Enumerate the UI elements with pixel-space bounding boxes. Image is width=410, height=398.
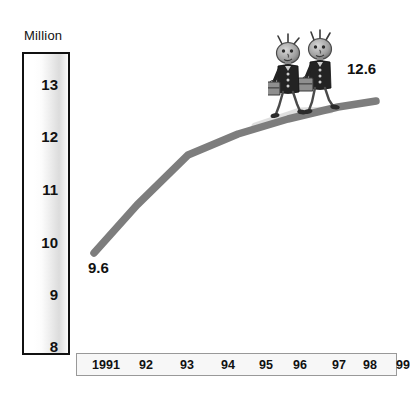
y-axis-tick-12: 12 (41, 128, 58, 145)
x-axis-tick-94: 94 (221, 358, 235, 372)
y-axis-tick-11: 11 (42, 181, 58, 198)
trend-line (94, 101, 376, 253)
x-axis-tick-1991: 1991 (92, 358, 120, 372)
x-axis-scale-box: 1991 92 93 94 95 96 97 98 99 2000 (76, 353, 397, 376)
businessman-right (298, 30, 340, 115)
x-axis-tick-96: 96 (293, 358, 307, 372)
x-axis-tick-97: 97 (332, 358, 346, 372)
x-axis-tick-99: 99 (396, 358, 410, 372)
x-axis-tick-95: 95 (259, 358, 273, 372)
x-axis-tick-98: 98 (363, 358, 377, 372)
y-axis-title: Million (24, 28, 62, 43)
chart-page: Million 13 12 11 10 9 8 1991 92 93 94 95… (0, 0, 410, 398)
x-axis-tick-93: 93 (180, 358, 194, 372)
y-axis-tick-8: 8 (50, 338, 58, 355)
y-axis-tick-9: 9 (50, 286, 58, 303)
x-axis-tick-92: 92 (139, 358, 153, 372)
y-axis-scale-box: 13 12 11 10 9 8 (22, 52, 70, 355)
businessman-left (268, 34, 307, 118)
start-value-label: 9.6 (88, 259, 109, 276)
businessmen-walking-illustration (268, 26, 352, 118)
y-axis-tick-10: 10 (41, 234, 58, 251)
y-axis-tick-13: 13 (41, 76, 58, 93)
